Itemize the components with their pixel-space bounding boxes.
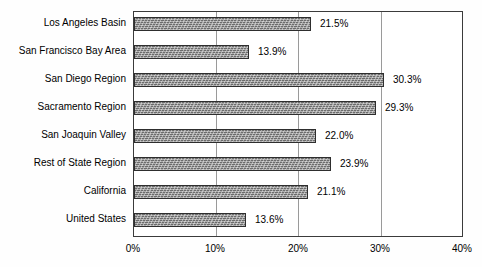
x-axis-tick-label: 40% (452, 243, 472, 255)
category-label: Rest of State Region (34, 156, 126, 170)
bar-value-label: 21.1% (317, 185, 345, 199)
bar-value-label: 13.6% (255, 213, 283, 227)
bar (134, 129, 316, 143)
bar-chart: Los Angeles Basin San Francisco Bay Area… (0, 0, 482, 267)
x-axis-tick-label: 20% (288, 243, 308, 255)
table-row: 13.6% (134, 213, 462, 227)
plot-area: 21.5% 13.9% 30.3% 29.3% 22.0% 23.9% 21.1… (133, 11, 463, 237)
bar (134, 101, 376, 115)
bar (134, 213, 246, 227)
table-row: 21.1% (134, 185, 462, 199)
table-row: 30.3% (134, 73, 462, 87)
x-axis-tick-label: 0% (126, 243, 140, 255)
category-label: Sacramento Region (38, 100, 126, 114)
category-label: United States (66, 212, 126, 226)
bar-value-label: 30.3% (393, 73, 421, 87)
x-axis-tick-label: 10% (205, 243, 225, 255)
table-row: 29.3% (134, 101, 462, 115)
category-label: San Francisco Bay Area (19, 44, 126, 58)
bar (134, 73, 384, 87)
bar-value-label: 22.0% (325, 129, 353, 143)
table-row: 13.9% (134, 45, 462, 59)
bar (134, 45, 249, 59)
category-label: San Joaquin Valley (41, 128, 126, 142)
category-label: Los Angeles Basin (44, 16, 126, 30)
bar-value-label: 29.3% (385, 101, 413, 115)
category-label: San Diego Region (45, 72, 126, 86)
bar (134, 157, 331, 171)
table-row: 22.0% (134, 129, 462, 143)
bar-value-label: 23.9% (340, 157, 368, 171)
category-label: California (84, 184, 126, 198)
bar (134, 185, 308, 199)
table-row: 21.5% (134, 17, 462, 31)
table-row: 23.9% (134, 157, 462, 171)
x-axis-tick-label: 30% (370, 243, 390, 255)
bar-value-label: 21.5% (320, 17, 348, 31)
bar (134, 17, 311, 31)
bar-value-label: 13.9% (258, 45, 286, 59)
